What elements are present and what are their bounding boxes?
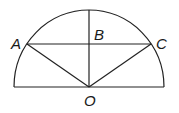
- segment-oc: [89, 44, 151, 87]
- segment-oa: [27, 44, 89, 87]
- semicircle-diagram: A B C O: [0, 0, 179, 113]
- label-b: B: [94, 26, 104, 43]
- label-a: A: [10, 35, 21, 52]
- label-o: O: [84, 92, 96, 109]
- label-c: C: [156, 35, 167, 52]
